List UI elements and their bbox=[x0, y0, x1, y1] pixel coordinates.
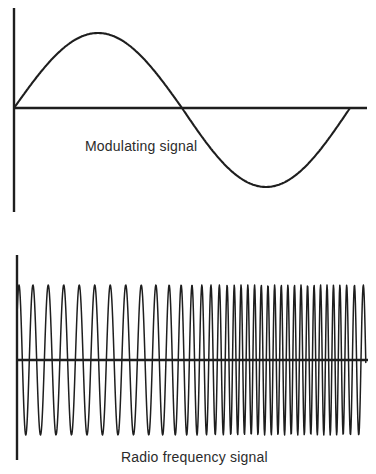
figure-svg bbox=[0, 0, 376, 474]
modulating-signal-label: Modulating signal bbox=[85, 138, 197, 154]
rf-signal-plot bbox=[17, 255, 368, 460]
figure-canvas: Modulating signal Radio frequency signal bbox=[0, 0, 376, 474]
rf-signal-label: Radio frequency signal bbox=[121, 449, 268, 465]
modulating-sine-curve bbox=[14, 33, 350, 187]
modulating-signal-plot bbox=[14, 8, 367, 212]
